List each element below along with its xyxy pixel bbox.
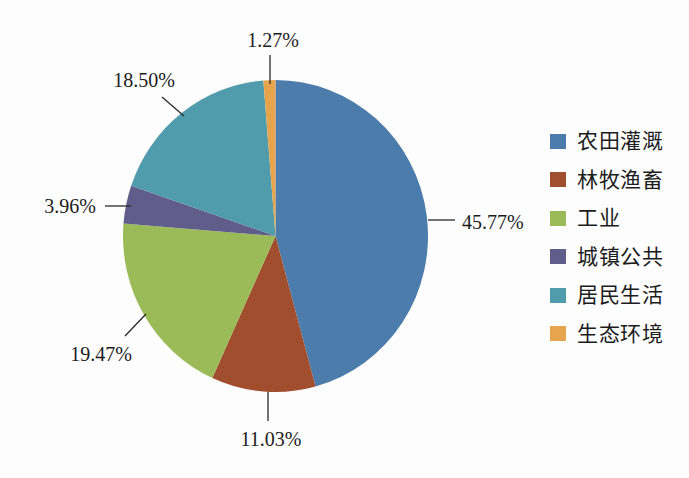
legend-item-urban-public: 城镇公共 <box>550 246 663 268</box>
legend-swatch-residential-life <box>550 288 566 303</box>
legend-item-forestry-livestock: 林牧渔畜 <box>550 169 663 191</box>
legend-item-residential-life: 居民生活 <box>550 284 663 306</box>
leader-line-4 <box>162 97 184 116</box>
chart-canvas: 45.77%11.03%19.47%3.96%18.50%1.27% 农田灌溉 … <box>0 0 689 478</box>
percent-label-2: 19.47% <box>70 343 132 365</box>
legend-item-industry: 工业 <box>550 207 663 229</box>
legend-label-ecological-environment: 生态环境 <box>577 323 663 345</box>
legend-swatch-industry <box>550 211 566 226</box>
percent-label-5: 1.27% <box>247 29 299 51</box>
legend-swatch-urban-public <box>550 249 566 264</box>
percent-label-3: 3.96% <box>44 195 96 217</box>
legend-label-industry: 工业 <box>577 207 620 229</box>
percent-label-4: 18.50% <box>113 69 175 91</box>
legend-label-urban-public: 城镇公共 <box>577 246 663 268</box>
legend-swatch-farmland-irrigation <box>550 134 566 149</box>
legend-swatch-forestry-livestock <box>550 172 566 187</box>
leader-line-2 <box>125 314 146 336</box>
legend-label-farmland-irrigation: 农田灌溉 <box>577 130 663 152</box>
legend: 农田灌溉 林牧渔畜 工业 城镇公共 居民生活 生态环境 <box>550 130 663 345</box>
percent-label-0: 45.77% <box>462 211 524 233</box>
legend-label-residential-life: 居民生活 <box>577 284 663 306</box>
legend-item-farmland-irrigation: 农田灌溉 <box>550 130 663 152</box>
legend-item-ecological-environment: 生态环境 <box>550 323 663 345</box>
legend-swatch-ecological-environment <box>550 326 566 341</box>
percent-label-1: 11.03% <box>241 428 302 450</box>
legend-label-forestry-livestock: 林牧渔畜 <box>577 169 663 191</box>
